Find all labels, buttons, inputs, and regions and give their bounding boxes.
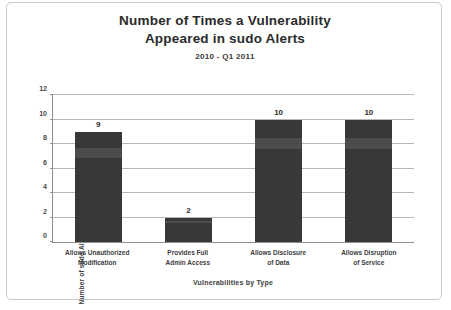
x-axis-category-line: Allows Disruption bbox=[326, 248, 413, 258]
bar-value-label: 2 bbox=[186, 206, 190, 215]
y-axis-tick-label: 12 bbox=[39, 85, 47, 92]
bar-slot: 9 bbox=[53, 95, 143, 242]
plot-area: 024681012 921010 bbox=[52, 95, 414, 243]
bar[interactable]: 2 bbox=[165, 218, 212, 243]
y-axis-tick-label: 2 bbox=[43, 207, 47, 214]
x-axis-category-label: Allows Disclosureof Data bbox=[233, 248, 324, 268]
bar-slot: 10 bbox=[324, 95, 414, 242]
x-axis-category-line: Provides Full bbox=[145, 248, 232, 258]
bar[interactable]: 10 bbox=[345, 120, 392, 243]
bars-layer: 921010 bbox=[53, 95, 414, 242]
x-axis-category-label: Allows UnauthorizedModification bbox=[52, 248, 143, 268]
y-axis-tick-label: 8 bbox=[43, 134, 47, 141]
x-axis-category-line: Allows Unauthorized bbox=[54, 248, 141, 258]
x-axis-category-label: Provides FullAdmin Access bbox=[143, 248, 234, 268]
y-axis-tick-label: 0 bbox=[43, 232, 47, 239]
chart-subtitle: 2010 - Q1 2011 bbox=[40, 52, 410, 61]
x-axis-labels: Allows UnauthorizedModificationProvides … bbox=[52, 248, 414, 268]
plot-wrapper: Number of sudo Alerts 024681012 921010 bbox=[52, 95, 414, 243]
bar[interactable]: 9 bbox=[75, 132, 122, 242]
x-axis-title: Vulnerabilities by Type bbox=[52, 279, 414, 286]
x-axis-category-label: Allows Disruptionof Service bbox=[324, 248, 415, 268]
chart-title-line-1: Number of Times a Vulnerability bbox=[40, 12, 410, 30]
bar-value-label: 10 bbox=[364, 108, 373, 117]
x-axis-category-line: of Data bbox=[235, 258, 322, 268]
x-axis-category-line: of Service bbox=[326, 258, 413, 268]
bar-chart: Number of Times a Vulnerability Appeared… bbox=[0, 0, 451, 310]
bar-highlight bbox=[165, 221, 212, 223]
bar[interactable]: 10 bbox=[255, 120, 302, 243]
bar-highlight bbox=[75, 148, 122, 158]
x-axis-category-line: Modification bbox=[54, 258, 141, 268]
bar-value-label: 10 bbox=[274, 108, 283, 117]
y-axis-tick-label: 6 bbox=[43, 158, 47, 165]
bar-slot: 2 bbox=[143, 95, 233, 242]
chart-title-block: Number of Times a Vulnerability Appeared… bbox=[40, 12, 410, 61]
x-axis-category-line: Admin Access bbox=[145, 258, 232, 268]
y-axis-tick-label: 10 bbox=[39, 109, 47, 116]
y-axis-tick-label: 4 bbox=[43, 183, 47, 190]
bar-highlight bbox=[345, 138, 392, 149]
chart-title-line-2: Appeared in sudo Alerts bbox=[40, 30, 410, 48]
bar-value-label: 9 bbox=[96, 120, 100, 129]
bar-highlight bbox=[255, 138, 302, 149]
bar-slot: 10 bbox=[234, 95, 324, 242]
x-axis-category-line: Allows Disclosure bbox=[235, 248, 322, 258]
